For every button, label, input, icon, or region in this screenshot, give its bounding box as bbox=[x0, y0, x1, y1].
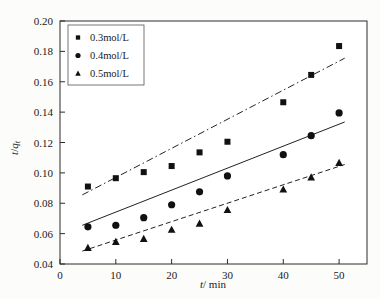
legend: 0.3mol/L0.4mol/L0.5mol/L bbox=[68, 25, 144, 85]
data-point bbox=[169, 163, 175, 169]
data-point bbox=[336, 43, 342, 49]
data-point bbox=[224, 172, 231, 179]
y-tick-label: 0.08 bbox=[34, 197, 54, 209]
data-point bbox=[308, 72, 314, 78]
chart-figure: 0.040.060.080.100.120.140.160.180.20 010… bbox=[0, 0, 380, 299]
legend-label: 0.5mol/L bbox=[90, 68, 129, 79]
data-point bbox=[112, 222, 119, 229]
data-point bbox=[196, 188, 203, 195]
svg-text:t/qt: t/qt bbox=[8, 140, 22, 155]
x-axis-title-units: / min bbox=[203, 278, 226, 290]
data-point bbox=[335, 109, 342, 116]
y-tick-label: 0.14 bbox=[34, 106, 54, 118]
x-tick-label: 40 bbox=[278, 269, 290, 281]
data-point bbox=[308, 132, 315, 139]
y-axis-tick-labels: 0.040.060.080.100.120.140.160.180.20 bbox=[34, 15, 54, 270]
x-tick-label: 20 bbox=[166, 269, 178, 281]
data-point bbox=[168, 201, 175, 208]
legend-marker bbox=[76, 35, 80, 39]
y-axis-title-subscript: t bbox=[13, 140, 22, 143]
y-tick-label: 0.18 bbox=[34, 45, 54, 57]
svg-text:t/ min: t/ min bbox=[200, 278, 226, 290]
x-tick-label: 10 bbox=[110, 269, 122, 281]
legend-label: 0.4mol/L bbox=[90, 50, 129, 61]
data-point bbox=[84, 223, 91, 230]
x-tick-label: 50 bbox=[334, 269, 346, 281]
y-axis-title: t/qt bbox=[8, 140, 22, 155]
y-tick-label: 0.16 bbox=[34, 76, 54, 88]
data-point bbox=[224, 139, 230, 145]
data-point bbox=[113, 175, 119, 181]
y-tick-label: 0.12 bbox=[34, 137, 53, 149]
x-tick-label: 0 bbox=[57, 269, 63, 281]
data-point bbox=[280, 151, 287, 158]
y-tick-label: 0.04 bbox=[34, 258, 54, 270]
scatter-plot: 0.040.060.080.100.120.140.160.180.20 010… bbox=[0, 0, 380, 299]
data-point bbox=[85, 184, 91, 190]
data-point bbox=[280, 99, 286, 105]
legend-marker bbox=[75, 53, 80, 58]
data-point bbox=[197, 149, 203, 155]
y-tick-label: 0.20 bbox=[34, 15, 54, 27]
data-point bbox=[141, 169, 147, 175]
data-point bbox=[140, 214, 147, 221]
y-tick-label: 0.10 bbox=[34, 167, 54, 179]
y-tick-label: 0.06 bbox=[34, 228, 54, 240]
x-axis-title: t/ min bbox=[200, 278, 226, 290]
legend-label: 0.3mol/L bbox=[90, 32, 129, 43]
